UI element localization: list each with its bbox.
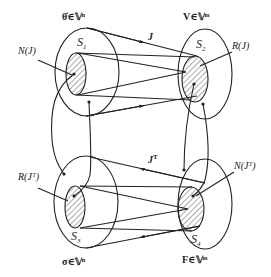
set-s2: S2 bbox=[178, 29, 232, 119]
space-label-s3: σ∈𝕍ⁿ bbox=[62, 256, 86, 267]
transpose-label: JT bbox=[147, 153, 158, 165]
space-label-s1: θ̇∈𝕍ⁿ bbox=[62, 11, 86, 22]
space-label-s2: V∈𝕍ᵐ bbox=[183, 11, 210, 22]
set-s3: S3 bbox=[54, 156, 118, 248]
svg-text:R(Jᵀ): R(Jᵀ) bbox=[17, 171, 40, 183]
svg-text:N(J): N(J) bbox=[17, 45, 36, 57]
range-region-s2 bbox=[182, 56, 208, 102]
svg-text:R(J): R(J) bbox=[231, 40, 250, 52]
jacobian-mapping-diagram: θ̇∈𝕍ⁿ V∈𝕍ᵐ σ∈𝕍ⁿ F∈𝕍ᵐ S1 N(J) S2 R(J) S3 bbox=[0, 0, 271, 277]
svg-text:θ̇∈𝕍ⁿ: θ̇∈𝕍ⁿ bbox=[62, 11, 86, 22]
set-name-s4: S4 bbox=[191, 232, 201, 248]
subspace-label-s1: N(J) bbox=[17, 45, 72, 75]
svg-text:N(Jᵀ): N(Jᵀ) bbox=[233, 160, 256, 172]
set-s4: S4 bbox=[178, 159, 232, 249]
row-space-region-s3 bbox=[65, 186, 85, 228]
mapping-j: J bbox=[76, 28, 197, 116]
svg-text:F∈𝕍ᵐ: F∈𝕍ᵐ bbox=[182, 254, 208, 265]
svg-text:V∈𝕍ᵐ: V∈𝕍ᵐ bbox=[183, 11, 210, 22]
set-name-s1: S1 bbox=[77, 35, 87, 51]
set-name-s3: S3 bbox=[71, 229, 81, 245]
svg-text:σ∈𝕍ⁿ: σ∈𝕍ⁿ bbox=[62, 256, 86, 267]
svg-text:J: J bbox=[147, 31, 154, 42]
set-name-s2: S2 bbox=[196, 37, 206, 53]
outer-ellipse-s3 bbox=[54, 156, 118, 248]
space-label-s4: F∈𝕍ᵐ bbox=[182, 254, 208, 265]
